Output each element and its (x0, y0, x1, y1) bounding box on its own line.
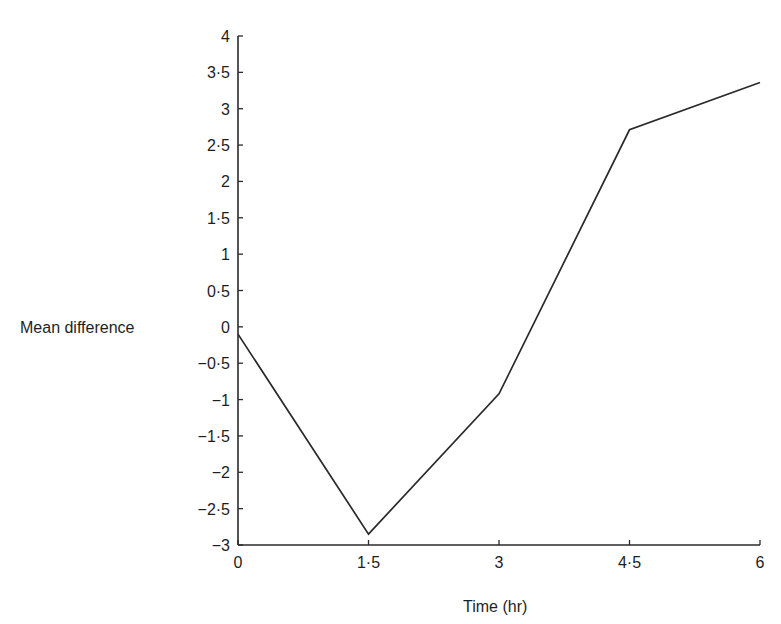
y-tick-label: −1 (212, 392, 230, 409)
x-tick-label: 0 (234, 554, 243, 571)
y-axis-title: Mean difference (20, 319, 135, 336)
y-tick-label: 1·5 (207, 210, 230, 227)
line-chart: 43·532·521·510·50−0·5−1−1·5−2−2·5−3 01·5… (0, 0, 781, 624)
y-tick-label: 1 (221, 246, 230, 263)
x-tick-label: 3 (495, 554, 504, 571)
x-tick-label: 1·5 (357, 554, 380, 571)
y-tick-label: 2·5 (207, 137, 230, 154)
y-tick-label: −0·5 (198, 355, 231, 372)
y-tick-label: −2 (212, 464, 230, 481)
y-tick-label: 3·5 (207, 64, 230, 81)
y-tick-label: 2 (221, 173, 230, 190)
x-tick-labels: 01·534·56 (234, 554, 765, 571)
y-tick-label: −3 (212, 537, 230, 554)
y-tick-label: −2·5 (198, 501, 231, 518)
mean-difference-line (238, 83, 760, 535)
y-tick-label: 3 (221, 101, 230, 118)
x-tick-label: 4·5 (618, 554, 641, 571)
y-tick-labels: 43·532·521·510·50−0·5−1−1·5−2−2·5−3 (198, 28, 231, 554)
y-tick-label: 4 (221, 28, 230, 45)
y-tick-label: 0 (221, 319, 230, 336)
x-tick-label: 6 (756, 554, 765, 571)
y-tick-label: 0·5 (207, 283, 230, 300)
x-axis-title: Time (hr) (463, 598, 527, 615)
y-tick-label: −1·5 (198, 428, 231, 445)
